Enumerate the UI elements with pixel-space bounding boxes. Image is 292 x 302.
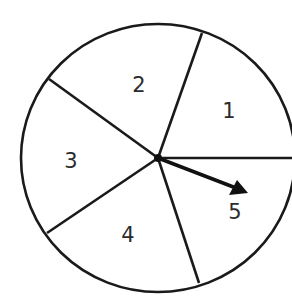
spinner-diagram: 1 2 3 4 5 [0,0,292,302]
section-label-2: 2 [132,73,145,97]
divider-top [158,33,202,158]
section-label-1: 1 [222,99,235,123]
section-label-4: 4 [121,223,134,247]
section-label-5: 5 [228,200,241,224]
pivot-dot [154,154,162,162]
divider-bottom [158,158,199,283]
section-label-3: 3 [64,149,77,173]
